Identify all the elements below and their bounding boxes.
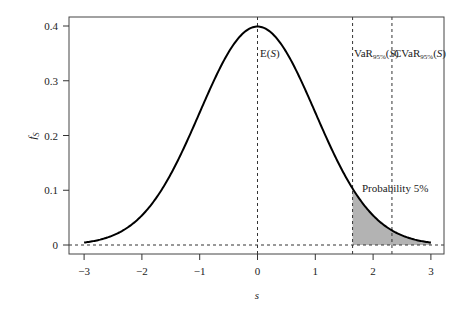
x-tick-label: −3 (78, 265, 90, 277)
x-tick-label: 3 (428, 265, 434, 277)
mean-label: E(S) (260, 47, 280, 60)
x-tick-label: −1 (194, 265, 206, 277)
y-tick-label: 0 (53, 239, 59, 251)
y-tick-label: 0.3 (44, 75, 58, 87)
x-axis-title: s (255, 289, 259, 301)
x-axis: −3−2−10123 (78, 254, 434, 277)
y-axis-title: fS (26, 132, 41, 139)
y-tick-label: 0.4 (44, 20, 58, 32)
y-tick-label: 0.2 (44, 130, 58, 142)
x-tick-label: 1 (313, 265, 319, 277)
density-chart: −3−2−10123 00.10.20.30.4 s fS E(S) VaR95… (0, 0, 467, 312)
x-tick-label: 2 (370, 265, 376, 277)
y-axis: 00.10.20.30.4 (44, 20, 69, 251)
probability-label: Probability 5% (362, 182, 428, 194)
y-tick-label: 0.1 (44, 184, 58, 196)
x-tick-label: 0 (255, 265, 261, 277)
var-label: VaR95%(S) (354, 47, 399, 61)
x-tick-label: −2 (136, 265, 148, 277)
cvar-label: CVaR95%(S) (394, 47, 446, 61)
